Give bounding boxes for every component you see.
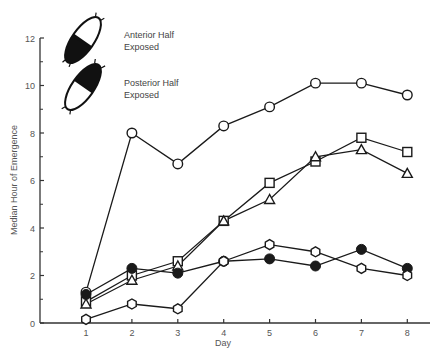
x-tick-label: 5 <box>267 328 272 338</box>
y-tick-label: 10 <box>25 81 35 91</box>
marker-open-square <box>265 178 274 187</box>
marker-open-circle <box>357 78 367 88</box>
x-tick-label: 4 <box>221 328 226 338</box>
x-tick-label: 2 <box>129 328 134 338</box>
x-tick-label: 1 <box>83 328 88 338</box>
y-tick-label: 0 <box>30 319 35 329</box>
x-tick-label: 6 <box>313 328 318 338</box>
y-tick-label: 8 <box>30 129 35 139</box>
marker-open-circle <box>127 128 137 138</box>
marker-open-circle <box>219 121 229 131</box>
pupa-anterior-black-icon <box>57 9 109 71</box>
chart: 02468101212345678 Anterior Half Exposed … <box>0 0 443 359</box>
x-tick-label: 3 <box>175 328 180 338</box>
legend-label-posterior-line2: Exposed <box>124 90 159 100</box>
marker-open-triangle <box>402 168 412 177</box>
marker-open-hexagon <box>128 299 137 309</box>
marker-open-hexagon <box>174 304 183 314</box>
marker-filled-circle <box>81 290 91 300</box>
marker-open-hexagon <box>403 271 412 281</box>
marker-open-hexagon <box>265 240 274 250</box>
legend-label-anterior-line2: Exposed <box>124 42 159 52</box>
y-axis-title: Median Hour of Emergence <box>9 125 19 235</box>
marker-filled-circle <box>173 268 183 278</box>
y-tick-label: 6 <box>30 176 35 186</box>
marker-open-square <box>403 148 412 157</box>
marker-open-hexagon <box>219 256 228 266</box>
marker-open-square <box>357 133 366 142</box>
marker-open-circle <box>173 159 183 169</box>
y-tick-label: 4 <box>30 224 35 234</box>
legend-label-posterior-line1: Posterior Half <box>124 78 179 88</box>
marker-open-hexagon <box>82 314 91 324</box>
marker-open-circle <box>311 78 321 88</box>
marker-filled-circle <box>356 244 366 254</box>
x-tick-label: 7 <box>359 328 364 338</box>
pupa-posterior-black-icon <box>57 56 109 118</box>
marker-filled-circle <box>311 261 321 271</box>
marker-open-circle <box>403 90 413 100</box>
x-tick-label: 8 <box>405 328 410 338</box>
marker-open-hexagon <box>311 247 320 257</box>
y-tick-label: 2 <box>30 271 35 281</box>
y-tick-label: 12 <box>25 34 35 44</box>
legend-label-anterior-line1: Anterior Half <box>124 30 175 40</box>
marker-filled-circle <box>127 263 137 273</box>
marker-open-circle <box>265 102 275 112</box>
marker-open-triangle <box>356 145 366 154</box>
series-line-open-circle <box>86 83 407 292</box>
marker-filled-circle <box>265 254 275 264</box>
x-axis-title: Day <box>215 338 232 348</box>
marker-open-hexagon <box>357 263 366 273</box>
legend: Anterior Half Exposed Posterior Half Exp… <box>57 9 179 118</box>
